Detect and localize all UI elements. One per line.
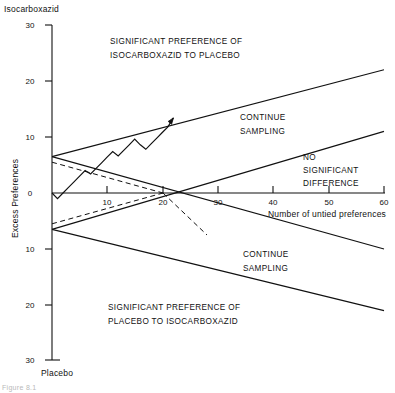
- x-tick-label-50: 50: [325, 198, 334, 207]
- region-label-lower-significant-line1: SIGNIFICANT PREFERENCE OF: [108, 303, 240, 312]
- y-tick-label-20-bottom: 20: [26, 301, 35, 310]
- region-label-no-difference-line2: SIGNIFICANT: [303, 166, 359, 175]
- region-label-upper-significant-line2: ISOCARBOXAZID TO PLACEBO: [110, 51, 240, 60]
- region-label-upper-significant-line1: SIGNIFICANT PREFERENCE OF: [110, 37, 242, 46]
- y-tick-label-30-bottom: 30: [26, 356, 35, 365]
- chart-svg: Isocarboxazid 30 20 10 0 10 20 30 Placeb…: [0, 0, 395, 393]
- lower-significance-boundary: [52, 229, 384, 310]
- region-label-lower-significant-line2: PLACEBO TO ISOCARBOXAZID: [108, 317, 238, 326]
- y-axis-ticks-upper: [45, 25, 52, 137]
- y-tick-label-0: 0: [28, 189, 33, 198]
- x-axis-title: Number of untied preferences: [268, 209, 386, 219]
- y-tick-label-30-top: 30: [26, 21, 35, 30]
- region-label-upper-continue-line2: SAMPLING: [240, 127, 285, 136]
- upper-significance-boundary: [52, 70, 384, 157]
- figure-caption: Figure 8.1: [2, 384, 37, 392]
- region-label-upper-continue-line1: CONTINUE: [240, 113, 286, 122]
- y-axis-title: Excess Preferences: [10, 159, 20, 238]
- y-tick-label-10-top: 10: [26, 133, 35, 142]
- y-tick-label-10-bottom: 10: [26, 245, 35, 254]
- top-axis-label: Isocarboxazid: [4, 4, 59, 14]
- x-tick-label-20: 20: [159, 198, 168, 207]
- region-label-lower-continue-line1: CONTINUE: [243, 250, 289, 259]
- x-tick-label-10: 10: [103, 198, 112, 207]
- bottom-axis-label: Placebo: [41, 368, 73, 378]
- y-axis-ticks-lower: [45, 249, 52, 360]
- sample-path-arrowhead: [168, 118, 173, 124]
- x-tick-label-60: 60: [380, 198, 389, 207]
- sequential-analysis-chart: Isocarboxazid 30 20 10 0 10 20 30 Placeb…: [0, 0, 395, 393]
- x-tick-label-40: 40: [269, 198, 278, 207]
- region-label-no-difference-line3: DIFFERENCE: [303, 179, 359, 188]
- region-label-lower-continue-line2: SAMPLING: [243, 264, 288, 273]
- no-difference-boundary-extension-dashed: [163, 193, 207, 235]
- region-label-no-difference-line1: NO: [303, 153, 316, 162]
- y-tick-label-20-top: 20: [26, 77, 35, 86]
